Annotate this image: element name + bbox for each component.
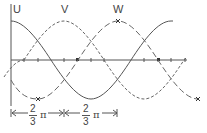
label-v: V [61,4,68,15]
dimension-arrow-1 [12,110,63,116]
dimension-label-2-fraction: 2 3 [82,104,90,127]
dimension-label-2-pi: π [93,110,100,120]
fraction-denominator: 3 [29,116,37,127]
label-u: U [13,4,21,15]
dimension-label-1-fraction: 2 3 [29,104,37,127]
fraction-denominator: 3 [82,116,90,127]
dimension-arrow-2 [65,109,117,117]
fraction-numerator: 2 [82,104,90,116]
dimension-label-1-pi: π [40,110,47,120]
label-w: W [113,4,123,15]
fraction-numerator: 2 [29,104,37,116]
